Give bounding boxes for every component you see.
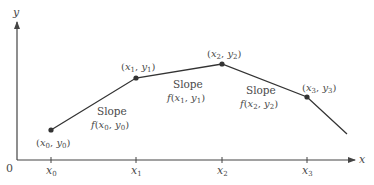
point-label-2: (x2, y2) (207, 48, 242, 61)
tick-label-x3: x3 (302, 164, 313, 178)
slope-label-2: Slope f(x2, y2) (239, 84, 278, 111)
point-label-0: (x0, y0) (36, 137, 71, 150)
point-label-1: (x1, y1) (121, 61, 156, 74)
y-axis-label: y (12, 6, 20, 19)
svg-text:Slope: Slope (246, 84, 276, 96)
point-label-3: (x3, y3) (302, 82, 337, 95)
origin-label: 0 (6, 162, 13, 175)
euler-method-diagram: y x 0 x0 x1 x2 x3 (x0, y0) (x1, y1) (x2,… (0, 0, 374, 185)
tick-label-x0: x0 (46, 164, 57, 178)
svg-text:Slope: Slope (173, 78, 203, 90)
svg-text:f(x1, y1): f(x1, y1) (166, 92, 205, 105)
tick-label-x1: x1 (131, 164, 142, 178)
point-1 (133, 75, 138, 80)
tick-label-x2: x2 (217, 164, 228, 178)
point-0 (48, 127, 53, 132)
slope-label-1: Slope f(x1, y1) (166, 78, 205, 105)
x-axis-label: x (359, 153, 366, 166)
svg-text:f(x0, y0): f(x0, y0) (90, 119, 129, 132)
point-3 (304, 94, 309, 99)
slope-label-0: Slope f(x0, y0) (90, 105, 129, 132)
point-2 (219, 61, 224, 66)
svg-text:Slope: Slope (97, 105, 127, 117)
svg-text:f(x2, y2): f(x2, y2) (239, 98, 278, 111)
